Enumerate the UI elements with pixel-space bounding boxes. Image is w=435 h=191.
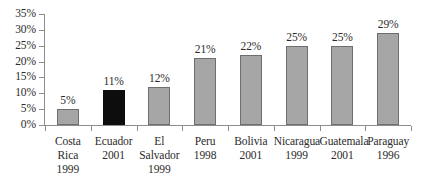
bar-group: 29% [365, 14, 411, 125]
bar-value-label: 22% [240, 41, 261, 53]
bar-value-label: 25% [286, 32, 307, 44]
bar-group: 21% [182, 14, 228, 125]
category-country: Bolivia [228, 134, 274, 148]
bar[interactable] [103, 90, 125, 125]
y-axis-tick-label: 5% [0, 103, 36, 115]
x-axis-tick-mark [45, 126, 46, 131]
category-country: Salvador [137, 148, 183, 162]
category-label: Bolivia2001 [228, 134, 274, 162]
bar-chart: 0%5%10%15%20%25%30%35% 5%11%12%21%22%25%… [0, 0, 435, 191]
y-axis-tick-labels: 0%5%10%15%20%25%30%35% [0, 0, 36, 132]
bar[interactable] [148, 87, 170, 125]
x-axis-tick-mark [411, 126, 412, 131]
category-year: 1999 [274, 148, 320, 162]
y-axis-tick-label: 30% [0, 24, 36, 36]
bar-group: 25% [320, 14, 366, 125]
bar-value-label: 25% [332, 32, 353, 44]
bar[interactable] [57, 109, 79, 125]
bar-value-label: 29% [378, 19, 399, 31]
category-label: Peru1998 [182, 134, 228, 162]
category-country: El [137, 134, 183, 148]
y-axis-tick-label: 15% [0, 71, 36, 83]
y-axis-tick-label: 10% [0, 87, 36, 99]
bar[interactable] [377, 33, 399, 125]
x-axis-tick-mark [137, 126, 138, 131]
category-country: Paraguay [365, 134, 411, 148]
category-label: ElSalvador1999 [137, 134, 183, 176]
bar-group: 22% [228, 14, 274, 125]
bar-group: 5% [45, 14, 91, 125]
category-label: Nicaragua1999 [274, 134, 320, 162]
category-year: 2001 [320, 148, 366, 162]
category-year: 1996 [365, 148, 411, 162]
x-axis-tick-mark [320, 126, 321, 131]
y-axis-tick-label: 0% [0, 119, 36, 131]
bar-group: 12% [137, 14, 183, 125]
category-label: Guatemala2001 [320, 134, 366, 162]
y-axis-tick-label: 25% [0, 40, 36, 52]
bar-group: 25% [274, 14, 320, 125]
category-country: Guatemala [320, 134, 366, 148]
x-axis-category-labels: Costa Rica1999Ecuador2001ElSalvador1999P… [45, 134, 411, 191]
x-axis-tick-mark [274, 126, 275, 131]
x-axis-tick-mark [91, 126, 92, 131]
plot-area: 5%11%12%21%22%25%25%29% [45, 14, 411, 125]
y-axis-tick-label: 20% [0, 56, 36, 68]
bar[interactable] [194, 58, 216, 125]
category-country: Nicaragua [274, 134, 320, 148]
y-axis-tick-label: 35% [0, 8, 36, 20]
category-label: Costa Rica1999 [45, 134, 91, 176]
bar-value-label: 21% [195, 44, 216, 56]
category-year: 1998 [182, 148, 228, 162]
category-country: Costa Rica [45, 134, 91, 162]
x-axis-tick-mark [182, 126, 183, 131]
bar-value-label: 5% [60, 95, 75, 107]
category-year: 1999 [137, 162, 183, 176]
bar[interactable] [331, 46, 353, 125]
category-label: Paraguay1996 [365, 134, 411, 162]
category-year: 2001 [91, 148, 137, 162]
category-label: Ecuador2001 [91, 134, 137, 162]
category-year: 1999 [45, 162, 91, 176]
bar-value-label: 11% [103, 76, 123, 88]
x-axis-tick-mark [365, 126, 366, 131]
category-country: Peru [182, 134, 228, 148]
category-year: 2001 [228, 148, 274, 162]
bar[interactable] [240, 55, 262, 125]
bar-group: 11% [91, 14, 137, 125]
bar[interactable] [286, 46, 308, 125]
x-axis-tick-mark [228, 126, 229, 131]
category-country: Ecuador [91, 134, 137, 148]
bar-value-label: 12% [149, 73, 170, 85]
